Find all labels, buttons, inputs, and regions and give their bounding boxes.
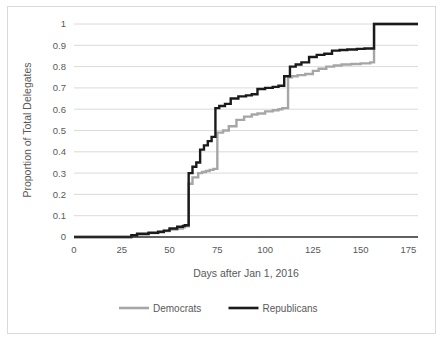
x-axis-title: Days after Jan 1, 2016 [193, 267, 299, 279]
y-tick-label: 1 [61, 18, 66, 29]
x-tick-label: 150 [353, 244, 369, 255]
x-tick-label: 0 [71, 244, 76, 255]
y-tick-label: 0.6 [53, 104, 66, 115]
chart-plot-svg: 00.10.20.30.40.50.60.70.80.91 0255075100… [0, 0, 443, 341]
x-axis-tick-labels: 0255075100125150175 [71, 244, 416, 255]
gridlines-group [74, 24, 418, 216]
chart-legend: DemocratsRepublicans [119, 303, 318, 314]
y-tick-label: 0.3 [53, 168, 66, 179]
legend-label-democrats[interactable]: Democrats [153, 303, 201, 314]
y-tick-label: 0.1 [53, 210, 66, 221]
y-axis-tick-labels: 00.10.20.30.40.50.60.70.80.91 [53, 18, 66, 242]
y-tick-label: 0.5 [53, 125, 66, 136]
y-tick-label: 0.2 [53, 189, 66, 200]
x-tick-label: 75 [212, 244, 223, 255]
x-tick-label: 100 [257, 244, 273, 255]
y-tick-label: 0.8 [53, 61, 66, 72]
x-tick-label: 25 [116, 244, 127, 255]
y-tick-label: 0.4 [53, 146, 66, 157]
x-tick-label: 175 [401, 244, 417, 255]
x-tick-label: 125 [305, 244, 321, 255]
y-tick-label: 0.9 [53, 40, 66, 51]
legend-label-republicans[interactable]: Republicans [263, 303, 318, 314]
y-tick-label: 0.7 [53, 82, 66, 93]
y-axis-title: Proportion of Total Delegates [21, 62, 33, 197]
x-tick-label: 50 [164, 244, 175, 255]
y-tick-label: 0 [61, 231, 66, 242]
chart-figure: 00.10.20.30.40.50.60.70.80.91 0255075100… [0, 0, 443, 341]
